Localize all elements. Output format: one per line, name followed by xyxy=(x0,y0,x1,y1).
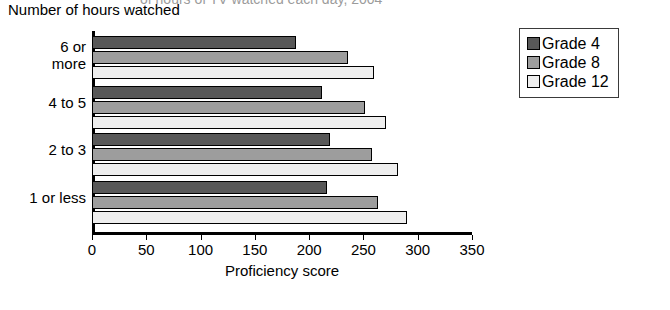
legend-item: Grade 12 xyxy=(527,72,609,91)
bar xyxy=(92,163,398,176)
bar xyxy=(92,148,372,161)
bar xyxy=(92,116,386,129)
x-axis-tick xyxy=(255,235,256,240)
legend-item: Grade 4 xyxy=(527,34,609,53)
category-label: 2 to 3 xyxy=(0,141,86,158)
x-axis-tick-label: 300 xyxy=(398,241,438,258)
bar xyxy=(92,133,330,146)
bar xyxy=(92,51,348,64)
legend-swatch-grade-4 xyxy=(527,37,540,50)
legend-swatch-grade-8 xyxy=(527,56,540,69)
y-axis-title: Number of hours watched xyxy=(8,1,180,18)
legend-item-label: Grade 4 xyxy=(542,34,600,53)
legend-item-label: Grade 8 xyxy=(542,53,600,72)
x-axis-tick-label: 150 xyxy=(235,241,275,258)
bar xyxy=(92,196,378,209)
bar xyxy=(92,66,374,79)
legend-swatch-grade-12 xyxy=(527,75,540,88)
chart-canvas: of hours of TV watched each day, 2004 Nu… xyxy=(0,0,670,310)
x-axis-tick xyxy=(92,235,93,240)
category-label: 4 to 5 xyxy=(0,94,86,111)
x-axis-tick-label: 200 xyxy=(289,241,329,258)
x-axis-tick xyxy=(146,235,147,240)
bar xyxy=(92,181,327,194)
category-label: 6 ormore xyxy=(0,38,86,72)
bar xyxy=(92,101,365,114)
x-axis-tick xyxy=(363,235,364,240)
chart-legend: Grade 4Grade 8Grade 12 xyxy=(519,28,619,98)
x-axis-tick xyxy=(418,235,419,240)
x-axis-tick-label: 50 xyxy=(126,241,166,258)
bar xyxy=(92,211,407,224)
x-axis-tick-label: 350 xyxy=(452,241,492,258)
x-axis-tick-label: 0 xyxy=(72,241,112,258)
bar xyxy=(92,86,322,99)
legend-item: Grade 8 xyxy=(527,53,609,72)
legend-item-label: Grade 12 xyxy=(542,72,609,91)
x-axis-tick xyxy=(309,235,310,240)
category-label: 1 or less xyxy=(0,189,86,206)
x-axis-tick xyxy=(201,235,202,240)
x-axis-tick-label: 100 xyxy=(181,241,221,258)
bar xyxy=(92,36,296,49)
x-axis-line xyxy=(92,232,472,235)
x-axis-tick-label: 250 xyxy=(343,241,383,258)
x-axis-title: Proficiency score xyxy=(92,262,472,279)
x-axis-tick xyxy=(472,235,473,240)
